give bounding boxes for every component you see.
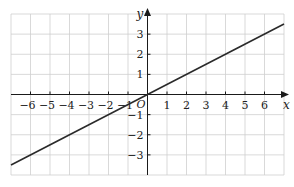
origin-label: O [137,98,146,111]
x-tick-label: 3 [203,99,210,112]
coordinate-plane-chart: −6−5−4−3−2−1123456−3−2−1123 x y O [0,0,294,187]
y-tick-label: −3 [127,149,143,162]
x-tick-label: 1 [164,99,171,112]
x-tick-label: 2 [183,99,190,112]
x-tick-label: 4 [222,99,229,112]
x-tick-label: −4 [58,99,74,112]
x-tick-label: −2 [97,99,113,112]
y-tick-label: −1 [127,109,143,122]
y-tick-label: −2 [127,129,143,142]
x-tick-label: 6 [261,99,268,112]
x-axis-label: x [283,98,290,112]
x-tick-label: −6 [19,99,35,112]
x-tick-label: −3 [78,99,94,112]
y-tick-label: 2 [137,48,144,61]
y-axis-label: y [136,7,144,21]
y-tick-label: 1 [137,68,144,81]
y-tick-label: 3 [137,28,144,41]
x-tick-label: −5 [39,99,55,112]
x-tick-label: 5 [242,99,249,112]
axes [11,8,289,175]
y-axis-arrow-icon [144,8,151,16]
